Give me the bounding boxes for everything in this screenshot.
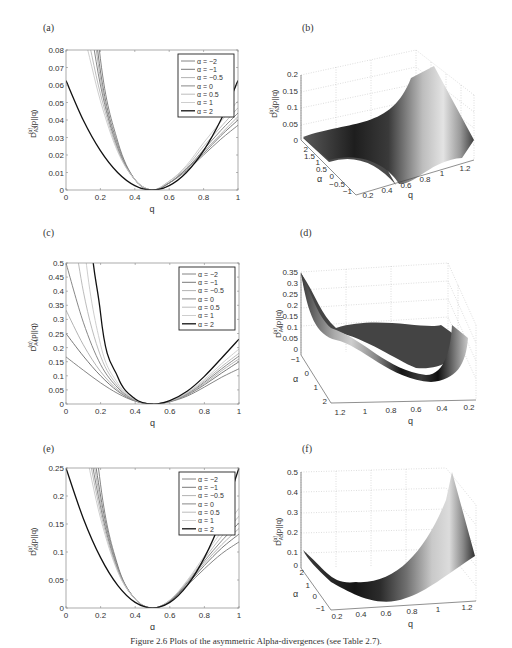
svg-text:0.25: 0.25 xyxy=(282,290,298,299)
surface-chart-b: 0.20.150.10.050 21.510.50−0.5−1 0.20.40.… xyxy=(256,0,512,220)
y-tick-label: 0.15 xyxy=(48,520,64,529)
svg-text:2: 2 xyxy=(300,568,305,577)
y-tick-label: 0.25 xyxy=(48,464,64,473)
x-tick-label: 0.8 xyxy=(198,193,210,202)
svg-text:0.4: 0.4 xyxy=(436,404,448,413)
x-tick-label: 1 xyxy=(237,407,242,416)
y-tick-label: 0.05 xyxy=(48,99,64,108)
y-tick-label: 0.08 xyxy=(48,46,64,55)
y-tick-label: 0.05 xyxy=(48,576,64,585)
x-tick-label: 0.6 xyxy=(164,407,176,416)
y-tick-label: 0.4 xyxy=(53,287,65,296)
svg-text:−1: −1 xyxy=(316,604,326,613)
y-tick-label: 0.3 xyxy=(53,315,65,324)
svg-text:0.1: 0.1 xyxy=(287,548,299,557)
figure-caption: Figure 2.6 Plots of the asymmetric Alpha… xyxy=(0,636,512,646)
svg-text:1.2: 1.2 xyxy=(334,408,346,417)
q-axis-label-b: q xyxy=(408,190,413,200)
y-tick-label: 0 xyxy=(60,604,65,613)
x-tick-label: 0.8 xyxy=(199,611,211,620)
legend-entry: α = −0.5 xyxy=(197,74,223,81)
x-tick-label: 0.8 xyxy=(199,407,211,416)
y-tick-label: 0 xyxy=(60,400,65,409)
svg-text:0.4: 0.4 xyxy=(355,610,367,619)
series-line xyxy=(66,357,239,404)
y-tick-label: 0.02 xyxy=(48,151,64,160)
alpha-axis-label-b: α xyxy=(317,174,322,184)
y-axis-label: DA3(α)(p||q) xyxy=(27,109,39,138)
x-tick-label: 0.2 xyxy=(95,407,107,416)
surface-chart-d: 0.350.30.250.20.150.10.050 −1012 1.210.8… xyxy=(256,220,512,430)
series-line xyxy=(66,334,239,405)
svg-text:0.05: 0.05 xyxy=(282,334,298,343)
svg-text:0.8: 0.8 xyxy=(406,607,418,616)
legend-entry: α = −1 xyxy=(198,279,218,286)
svg-text:0: 0 xyxy=(294,561,299,570)
legend-entry: α = −1 xyxy=(198,484,218,491)
svg-text:1: 1 xyxy=(440,169,445,178)
svg-text:1.5: 1.5 xyxy=(304,152,316,161)
legend-entry: α = 0.5 xyxy=(197,91,219,98)
x-tick-label: 0.2 xyxy=(95,193,107,202)
y-axis-label: DA5(α)(p||q) xyxy=(27,527,39,556)
line-chart-e: 00.20.40.60.8100.050.10.150.20.25qDA5(α)… xyxy=(0,420,256,630)
svg-text:0: 0 xyxy=(313,592,318,601)
legend-entry: α = 0 xyxy=(197,83,213,90)
legend-entry: α = 1 xyxy=(198,312,214,319)
x-tick-label: 1 xyxy=(237,611,242,620)
z-axis-label-b: DA3(α)(p||q) xyxy=(268,89,280,118)
svg-text:1: 1 xyxy=(436,605,441,614)
svg-text:1.2: 1.2 xyxy=(459,164,471,173)
legend-entry: α = 1 xyxy=(198,517,214,524)
svg-text:0.2: 0.2 xyxy=(362,191,374,200)
svg-text:0: 0 xyxy=(305,369,310,378)
svg-text:0.4: 0.4 xyxy=(287,488,299,497)
svg-text:1.2: 1.2 xyxy=(461,603,473,612)
x-axis-label: q xyxy=(149,204,154,214)
svg-text:0.15: 0.15 xyxy=(282,87,298,96)
svg-text:0.2: 0.2 xyxy=(287,528,299,537)
svg-text:0.1: 0.1 xyxy=(287,103,299,112)
y-tick-label: 0.05 xyxy=(48,386,64,395)
legend-entry: α = −2 xyxy=(198,271,218,278)
svg-text:0: 0 xyxy=(294,136,299,145)
svg-text:0.3: 0.3 xyxy=(287,279,299,288)
y-tick-label: 0.35 xyxy=(48,301,64,310)
legend-entry: α = 0 xyxy=(198,296,214,303)
svg-text:α: α xyxy=(293,374,298,384)
legend-entry: α = 0.5 xyxy=(198,304,220,311)
svg-text:0.4: 0.4 xyxy=(381,186,393,195)
z-ticks-b: 0.20.150.10.050 xyxy=(282,70,298,145)
legend-entry: α = 0.5 xyxy=(198,509,220,516)
legend-entry: α = 0 xyxy=(198,501,214,508)
legend-entry: α = −0.5 xyxy=(198,492,224,499)
svg-text:q: q xyxy=(408,619,413,629)
y-tick-label: 0.45 xyxy=(48,273,64,282)
y-tick-label: 0.04 xyxy=(48,116,64,125)
x-tick-label: 1 xyxy=(236,193,241,202)
svg-text:0.6: 0.6 xyxy=(380,609,392,618)
y-tick-label: 0.03 xyxy=(48,134,64,143)
svg-text:−1: −1 xyxy=(291,355,301,364)
x-tick-label: 0 xyxy=(64,193,69,202)
x-tick-label: 0.4 xyxy=(130,611,142,620)
y-tick-label: 0.1 xyxy=(53,372,65,381)
x-tick-label: 0.6 xyxy=(164,193,176,202)
legend: α = −2α = −1α = −0.5α = 0α = 0.5α = 1α =… xyxy=(179,472,235,535)
x-tick-label: 0 xyxy=(64,407,69,416)
y-tick-label: 0.15 xyxy=(48,358,64,367)
line-chart-c: 00.20.40.60.8100.050.10.150.20.250.30.35… xyxy=(0,220,256,430)
legend-entry: α = −2 xyxy=(197,58,217,65)
legend-entry: α = 1 xyxy=(197,99,213,106)
svg-text:1: 1 xyxy=(306,581,311,590)
svg-text:1: 1 xyxy=(363,407,368,416)
svg-text:2: 2 xyxy=(323,397,328,406)
x-tick-label: 0.4 xyxy=(129,193,141,202)
x-tick-label: 0.4 xyxy=(130,407,142,416)
legend: α = −2α = −1α = −0.5α = 0α = 0.5α = 1α =… xyxy=(178,54,234,117)
legend-entry: α = −2 xyxy=(198,476,218,483)
svg-text:0.05: 0.05 xyxy=(282,120,298,129)
svg-text:0.3: 0.3 xyxy=(287,508,299,517)
svg-text:0: 0 xyxy=(294,345,299,354)
svg-text:α: α xyxy=(293,589,298,599)
